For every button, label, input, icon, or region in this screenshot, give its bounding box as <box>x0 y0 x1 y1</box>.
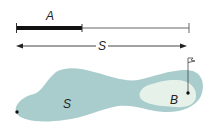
distance-arrow: S <box>16 39 187 53</box>
label-a: A <box>45 9 54 23</box>
label-s-region: S <box>63 97 71 111</box>
arrow-right-head <box>180 44 187 49</box>
tee-point <box>15 110 18 113</box>
label-b-region: B <box>170 93 178 107</box>
label-s-distance: S <box>98 39 106 53</box>
hole-point <box>186 91 189 94</box>
measurement-bar: A <box>16 9 189 33</box>
arrow-left-head <box>16 44 23 49</box>
golf-hole-diagram: A S S B <box>0 0 214 132</box>
